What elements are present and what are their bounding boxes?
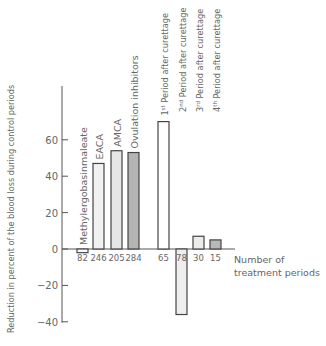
bar [210,240,221,249]
bar [158,122,169,249]
category-label: 2nd Period after curettage [178,8,188,113]
bar [193,236,204,249]
bar [93,163,104,249]
bar [128,153,139,249]
category-label: AMCA [112,118,123,146]
y-axis: 6040200−20−40 [37,86,68,328]
n-label: 205 [108,253,124,263]
category-label: 1st Period after curettage [160,13,170,116]
y-tick-label: 20 [45,208,58,219]
y-tick-label: 40 [45,171,58,182]
n-label: 30 [193,253,204,263]
n-label: 246 [90,253,106,263]
n-label: 284 [125,253,141,263]
category-label: EACA [94,133,105,159]
x-axis-label-line-1: Number of [234,254,285,265]
bar-chart: 6040200−20−40 MethylergobasinmaleateEACA… [0,0,326,346]
n-label: 82 [77,253,88,263]
n-label: 78 [176,253,187,263]
y-axis-label: Reduction in percent of the blood loss d… [6,85,16,333]
category-label: Methylergobasinmaleate [78,127,89,245]
category-label: 4th Period after curettage [212,9,222,112]
y-tick-label: −20 [37,280,58,291]
category-label: Ovulation inhibitors [129,55,140,148]
y-tick-label: 0 [52,244,58,255]
x-axis-label: Number of treatment periods [234,254,320,278]
y-tick-label: 60 [45,135,58,146]
bar [111,151,122,249]
category-label: 3rd Period after curettage [195,9,205,112]
n-label: 15 [210,253,221,263]
n-label: 65 [158,253,169,263]
y-tick-label: −40 [37,317,58,328]
treatment-period-counts: 8224620528465783015 [77,253,221,263]
x-axis-label-line-2: treatment periods [234,267,320,278]
